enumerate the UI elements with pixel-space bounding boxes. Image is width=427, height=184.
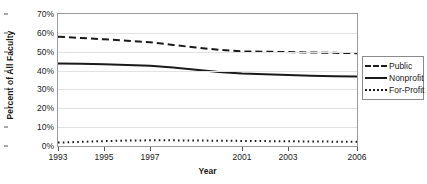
legend-line-sample (365, 65, 387, 67)
gridline (58, 108, 357, 109)
x-tick-label: 2003 (279, 152, 298, 162)
legend-swatch (365, 61, 387, 71)
legend-item-public: Public (365, 60, 421, 72)
x-axis-title: Year (57, 166, 358, 176)
gridline (58, 33, 357, 34)
legend-line-sample (365, 89, 387, 91)
series-line-for-profit (58, 140, 357, 142)
x-tick-mark (288, 147, 289, 151)
gridline (58, 52, 357, 53)
x-tick-mark (357, 147, 358, 151)
gridline (58, 89, 357, 90)
x-tick-label: 2006 (348, 152, 367, 162)
plot-area (57, 13, 358, 147)
y-tick-label: 40% (10, 66, 54, 76)
legend-line-sample (365, 77, 387, 79)
chart-legend: PublicNonprofitFor-Profit (362, 56, 424, 100)
legend-item-for-profit: For-Profit (365, 84, 421, 96)
x-tick-label: 1997 (141, 152, 160, 162)
x-tick-mark (242, 147, 243, 151)
x-tick-mark (150, 147, 151, 151)
y-tick-mark (4, 108, 8, 109)
y-tick-label: 30% (10, 84, 54, 94)
y-tick-label: 20% (10, 103, 54, 113)
x-tick-label: 1993 (49, 152, 68, 162)
legend-label: For-Profit (389, 85, 424, 95)
gridline (58, 71, 357, 72)
y-tick-label: 10% (10, 122, 54, 132)
legend-item-nonprofit: Nonprofit (365, 72, 421, 84)
y-tick-label: 60% (10, 28, 54, 38)
x-axis-ticks: 199319951997200120032006 (0, 147, 427, 167)
legend-swatch (365, 73, 387, 83)
legend-swatch (365, 85, 387, 95)
y-tick-label: 70% (10, 9, 54, 19)
gridline (58, 127, 357, 128)
legend-label: Public (389, 61, 412, 71)
y-tick-mark (4, 70, 8, 71)
chart-figure: Percent of All Faculty 0%10%20%30%40%50%… (0, 0, 427, 184)
y-tick-mark (4, 127, 8, 128)
x-tick-label: 1995 (95, 152, 114, 162)
y-tick-mark (4, 89, 8, 90)
y-tick-mark (4, 32, 8, 33)
legend-label: Nonprofit (389, 73, 424, 83)
y-tick-mark (4, 51, 8, 52)
y-tick-label: 50% (10, 47, 54, 57)
x-tick-label: 2001 (233, 152, 252, 162)
y-tick-mark (4, 14, 8, 15)
x-tick-mark (104, 147, 105, 151)
x-tick-mark (58, 147, 59, 151)
